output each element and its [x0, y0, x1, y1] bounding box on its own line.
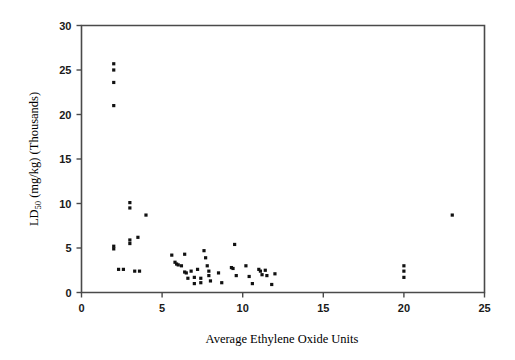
- data-point: [128, 242, 131, 245]
- data-point: [235, 274, 238, 277]
- data-point: [144, 213, 147, 216]
- y-axis-title: LD50 (mg/kg) (Thousands): [27, 92, 43, 226]
- data-point: [196, 268, 199, 271]
- x-axis-title: Average Ethylene Oxide Units: [206, 332, 359, 346]
- data-point: [128, 206, 131, 209]
- data-point: [259, 270, 262, 273]
- data-point: [270, 283, 273, 286]
- data-point: [185, 271, 188, 274]
- data-point: [193, 276, 196, 279]
- data-point: [138, 270, 141, 273]
- y-tick-label: 10: [59, 198, 71, 210]
- data-point: [402, 276, 405, 279]
- data-point: [248, 275, 251, 278]
- data-point: [451, 213, 454, 216]
- data-point: [112, 104, 115, 107]
- data-point: [233, 243, 236, 246]
- x-tick-label: 0: [78, 302, 84, 314]
- y-tick-label: 0: [65, 287, 71, 299]
- x-tick-label: 10: [237, 302, 249, 314]
- data-point-layer: [112, 62, 454, 286]
- y-tick-label: 5: [65, 242, 71, 254]
- data-point: [202, 249, 205, 252]
- data-point: [170, 254, 173, 257]
- data-point: [186, 277, 189, 280]
- x-tick-label: 15: [317, 302, 329, 314]
- data-point: [128, 201, 131, 204]
- x-tick-label: 5: [159, 302, 165, 314]
- plot-frame: [82, 26, 485, 293]
- data-point: [112, 68, 115, 71]
- data-point: [206, 264, 209, 267]
- data-point: [122, 268, 125, 271]
- data-point: [244, 264, 247, 267]
- data-point: [112, 62, 115, 65]
- data-point: [199, 277, 202, 280]
- y-axis-ticks: 051015202530: [59, 20, 81, 299]
- data-point: [112, 81, 115, 84]
- data-point: [190, 270, 193, 273]
- data-point: [260, 273, 263, 276]
- chart-canvas: 0510152025 051015202530 Average Ethylene…: [0, 0, 515, 360]
- data-point: [251, 282, 254, 285]
- data-point: [207, 274, 210, 277]
- data-point: [231, 267, 234, 270]
- data-point: [264, 269, 267, 272]
- data-point: [265, 274, 268, 277]
- svg-text:LD50 (mg/kg) (Thousands): LD50 (mg/kg) (Thousands): [27, 92, 43, 226]
- x-axis-ticks: 0510152025: [78, 293, 490, 314]
- data-point: [117, 268, 120, 271]
- data-point: [199, 281, 202, 284]
- data-point: [193, 282, 196, 285]
- x-tick-label: 25: [478, 302, 490, 314]
- data-point: [402, 270, 405, 273]
- data-point: [183, 253, 186, 256]
- y-tick-label: 30: [59, 20, 71, 32]
- data-point: [402, 264, 405, 267]
- data-point: [133, 270, 136, 273]
- data-point: [220, 281, 223, 284]
- data-point: [128, 238, 131, 241]
- data-point: [273, 272, 276, 275]
- scatter-plot-figure: 0510152025 051015202530 Average Ethylene…: [0, 0, 515, 360]
- data-point: [217, 271, 220, 274]
- data-point: [209, 279, 212, 282]
- data-point: [136, 236, 139, 239]
- data-point: [207, 270, 210, 273]
- y-tick-label: 25: [59, 64, 71, 76]
- data-point: [112, 247, 115, 250]
- x-tick-label: 20: [398, 302, 410, 314]
- y-tick-label: 15: [59, 153, 71, 165]
- data-point: [180, 264, 183, 267]
- y-tick-label: 20: [59, 109, 71, 121]
- data-point: [204, 256, 207, 259]
- data-point: [177, 263, 180, 266]
